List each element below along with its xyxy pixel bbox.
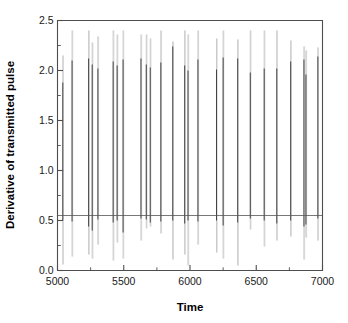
spike <box>185 31 186 255</box>
spike <box>318 48 319 241</box>
x-tick-label: 7000 <box>311 275 335 287</box>
spike <box>304 47 305 260</box>
spike <box>238 40 239 266</box>
spike-series <box>63 31 319 266</box>
spike <box>117 35 118 243</box>
spike <box>223 31 224 259</box>
chart-figure: 0.00.51.01.52.02.550005500600065007000 T… <box>0 0 348 323</box>
spike <box>217 39 218 253</box>
spike <box>146 35 147 229</box>
spike <box>89 31 90 255</box>
spike <box>173 42 174 260</box>
y-tick-label: 1.0 <box>39 164 54 176</box>
x-tick-label: 5500 <box>112 275 136 287</box>
spike <box>92 43 93 259</box>
y-axis-title: Derivative of transmitted pulse <box>4 61 16 229</box>
axis-tick-labels: 0.00.51.01.52.02.550005500600065007000 <box>39 14 334 286</box>
plot-frame <box>58 21 323 271</box>
x-tick-label: 6000 <box>178 275 202 287</box>
spike <box>98 37 99 245</box>
y-tick-label: 0.5 <box>39 214 54 226</box>
y-tick-label: 1.5 <box>39 114 54 126</box>
spike <box>72 31 73 257</box>
x-tick-label: 6500 <box>245 275 269 287</box>
x-tick-label: 5000 <box>46 275 70 287</box>
spike <box>291 41 292 237</box>
spike <box>198 31 199 245</box>
spike <box>277 31 278 241</box>
chart-plot-area: 0.00.51.01.52.02.550005500600065007000 T… <box>0 0 348 323</box>
spike <box>141 35 142 241</box>
spike <box>63 56 64 265</box>
spike <box>161 31 162 234</box>
spike <box>250 31 251 230</box>
spike <box>188 35 189 266</box>
spike <box>150 39 151 227</box>
y-tick-label: 2.5 <box>39 14 54 26</box>
spike <box>123 31 124 259</box>
spike <box>306 51 307 238</box>
y-tick-label: 2.0 <box>39 64 54 76</box>
axis-ticks <box>58 21 323 271</box>
x-axis-title: Time <box>177 301 204 313</box>
spike <box>264 31 265 247</box>
spike <box>113 31 114 261</box>
